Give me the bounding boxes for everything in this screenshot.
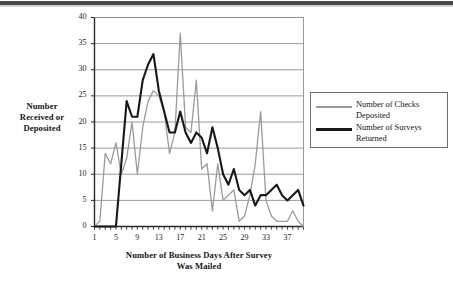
x-tick-label: 17 [172,233,188,242]
x-tick-label: 29 [237,233,253,242]
y-tick-label: 10 [69,169,87,178]
legend-label-surveys-returned-line-2: Returned [356,133,448,144]
y-tick-label: 20 [69,117,87,126]
x-tick-label: 25 [215,233,231,242]
legend-label-checks-deposited: Number of Checks Deposited [356,99,448,122]
y-tick-label: 25 [69,90,87,99]
y-tick-label: 30 [69,64,87,73]
y-tick-label: 15 [69,143,87,152]
tick-marks [91,18,304,230]
x-tick-label: 9 [129,233,145,242]
legend-label-surveys-returned-line-1: Number of Surveys [356,122,448,133]
x-tick-label: 21 [194,233,210,242]
legend-label-surveys-returned: Number of Surveys Returned [356,122,448,145]
y-tick-label: 0 [69,221,87,230]
chart-figure: Number Received or Deposited Number of B… [0,0,453,289]
data-series-layer [95,33,304,226]
x-tick-label: 37 [279,233,295,242]
legend-label-checks-deposited-line-1: Number of Checks [356,99,448,110]
x-tick-label: 13 [151,233,167,242]
x-tick-label: 5 [108,233,124,242]
x-tick-label: 33 [258,233,274,242]
legend-label-checks-deposited-line-2: Deposited [356,110,448,121]
x-tick-label: 1 [87,233,103,242]
legend-swatch-checks-deposited [316,106,352,108]
y-tick-label: 40 [69,12,87,21]
chart-legend: Number of Checks Deposited Number of Sur… [310,92,448,148]
legend-swatch-surveys-returned [316,128,352,131]
y-tick-label: 5 [69,195,87,204]
y-tick-label: 35 [69,38,87,47]
